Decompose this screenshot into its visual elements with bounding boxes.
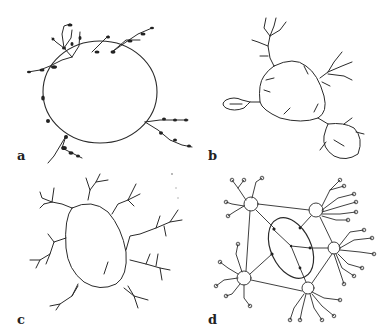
panel-b-drawing [194, 0, 388, 168]
figure: a [0, 0, 388, 336]
panel-c-drawing [0, 168, 194, 336]
panel-c: c [0, 168, 194, 336]
panel-label-d: d [208, 312, 217, 327]
panel-b: b [194, 0, 388, 168]
panel-label-c: c [17, 312, 25, 327]
panel-label-a: a [17, 148, 25, 163]
panel-label-b: b [208, 148, 217, 163]
panel-a-drawing [0, 0, 194, 168]
panel-a: a [0, 0, 194, 168]
panel-d: d [194, 168, 388, 336]
panel-d-drawing [194, 168, 388, 336]
